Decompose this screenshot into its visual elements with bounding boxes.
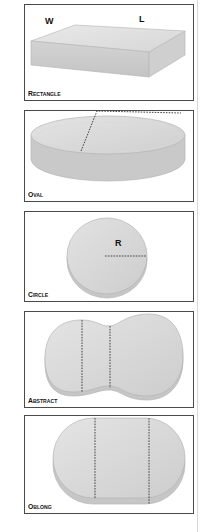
abstract-tray-illustration <box>25 312 195 409</box>
panel-circle: R Circle <box>24 211 194 302</box>
length-label: L <box>139 14 145 24</box>
shape-label-oval: Oval <box>28 190 43 199</box>
shape-label-circle: Circle <box>28 290 48 299</box>
shape-label-rectangle: Rectangle <box>28 89 61 98</box>
panel-oblong: Oblong <box>24 415 194 514</box>
radius-label: R <box>115 238 122 248</box>
circle-tray-illustration <box>25 212 195 303</box>
oval-tray-illustration <box>25 111 195 203</box>
shape-label-abstract: Abstract <box>28 396 57 405</box>
panel-rectangle: W L Rectangle <box>24 4 194 101</box>
right-divider <box>197 0 198 532</box>
shape-label-oblong: Oblong <box>28 502 52 511</box>
width-label: W <box>45 16 54 26</box>
panel-oval: Oval <box>24 110 194 202</box>
oblong-tray-illustration <box>25 416 195 515</box>
panel-abstract: Abstract <box>24 311 194 408</box>
